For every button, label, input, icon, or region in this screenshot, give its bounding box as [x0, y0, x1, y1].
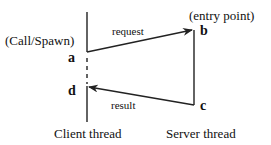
result-label: result [111, 99, 135, 111]
call-spawn-label: (Call/Spawn) [5, 33, 74, 48]
point-b: b [200, 23, 208, 38]
rpc-diagram: (Call/Spawn) a d request result (entry p… [0, 0, 271, 145]
result-arrow [89, 87, 194, 105]
server-thread-label: Server thread [166, 126, 236, 141]
entry-point-label: (entry point) [189, 8, 254, 23]
request-label: request [112, 25, 144, 37]
point-c: c [200, 98, 206, 113]
point-d: d [68, 83, 76, 98]
client-thread-label: Client thread [54, 126, 122, 141]
point-a: a [68, 50, 75, 65]
